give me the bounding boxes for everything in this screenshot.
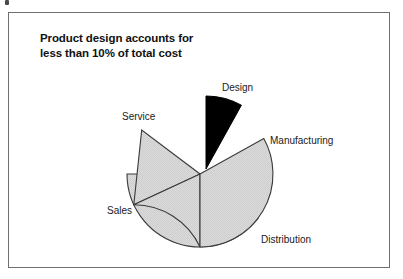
- figure-page: Product design accounts for less than 10…: [0, 0, 403, 279]
- pie-label-sales: Sales: [107, 205, 132, 216]
- pie-label-service: Service: [122, 111, 155, 122]
- pie-label-manufacturing: Manufacturing: [270, 135, 333, 146]
- pie-chart: Design Manufacturing Service Sales Distr…: [8, 12, 390, 268]
- scan-artifact-speck: [5, 0, 9, 5]
- pie-label-distribution: Distribution: [261, 234, 311, 245]
- design-leader-line: [214, 84, 222, 92]
- pie-label-design: Design: [222, 82, 253, 93]
